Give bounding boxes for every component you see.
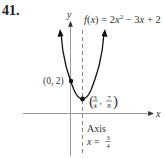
svg-text:8: 8 <box>107 102 111 110</box>
curve-arrow-right-icon <box>102 29 108 37</box>
parabola-graph: y x f(x) = 2x2 − 3x + 2 (0, 2) ( 3 4 , 7… <box>0 0 165 159</box>
svg-text:,: , <box>100 96 102 106</box>
svg-text:3: 3 <box>93 94 97 102</box>
y-axis-label: y <box>66 9 72 20</box>
function-label: f(x) = 2x2 − 3x + 2 <box>84 13 161 26</box>
svg-text:7: 7 <box>107 94 111 102</box>
svg-text:4: 4 <box>93 102 97 110</box>
curve-arrow-left-icon <box>58 29 64 37</box>
x-axis-label: x <box>155 108 161 119</box>
svg-text:x =: x = <box>86 136 100 147</box>
svg-text:4: 4 <box>106 142 110 149</box>
y-intercept-point <box>69 79 73 83</box>
axis-equation-label: x = 3 4 <box>86 134 111 149</box>
vertex-point <box>80 97 85 102</box>
vertex-label: ( 3 4 , 7 8 ) <box>89 93 118 110</box>
y-intercept-label: (0, 2) <box>43 76 64 87</box>
svg-text:3: 3 <box>106 134 109 141</box>
svg-text:): ) <box>113 93 118 110</box>
axis-label-word: Axis <box>87 123 106 134</box>
